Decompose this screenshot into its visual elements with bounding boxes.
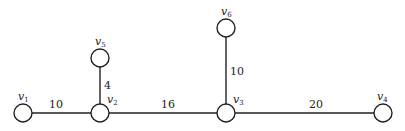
weight-v3-v6: 10 <box>230 65 244 78</box>
label-v4: v4 <box>377 90 388 104</box>
node-v6 <box>217 19 235 37</box>
label-v3: v3 <box>233 93 244 107</box>
graph-diagram: 10 4 16 10 20 v1 v2 v3 v4 v5 v6 <box>0 0 405 131</box>
node-v1 <box>14 104 32 122</box>
label-v6: v6 <box>221 5 232 19</box>
weight-v3-v4: 20 <box>309 98 323 111</box>
weight-v2-v5: 4 <box>104 79 111 92</box>
node-v4 <box>374 104 392 122</box>
node-v5 <box>91 49 109 67</box>
node-v3 <box>217 104 235 122</box>
label-v5: v5 <box>95 35 106 49</box>
label-v2: v2 <box>107 93 118 107</box>
weight-v2-v3: 16 <box>161 98 175 111</box>
node-v2 <box>91 104 109 122</box>
label-v1: v1 <box>18 90 29 104</box>
weight-v1-v2: 10 <box>49 98 63 111</box>
